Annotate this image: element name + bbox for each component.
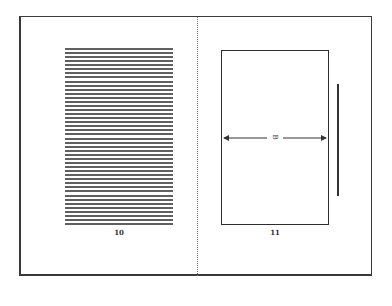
text-line	[65, 158, 173, 160]
text-line	[65, 121, 173, 123]
dimension-label: B	[271, 134, 279, 139]
text-line	[65, 89, 173, 91]
text-line	[65, 85, 173, 87]
text-line	[65, 166, 173, 168]
text-line	[65, 182, 173, 184]
text-line	[65, 215, 173, 217]
text-line	[65, 142, 173, 144]
text-line	[65, 162, 173, 164]
text-line	[65, 203, 173, 205]
text-line	[65, 64, 173, 66]
text-line	[65, 81, 173, 83]
text-line	[65, 186, 173, 188]
text-line	[65, 101, 173, 103]
text-line	[65, 125, 173, 127]
text-line	[65, 170, 173, 172]
text-line	[65, 195, 173, 197]
text-line	[65, 129, 173, 131]
text-line	[65, 174, 173, 176]
text-line	[65, 133, 173, 135]
text-block	[65, 48, 173, 226]
text-line	[65, 219, 173, 221]
text-line	[65, 117, 173, 119]
text-line	[65, 48, 173, 50]
text-line	[65, 68, 173, 70]
text-line	[65, 52, 173, 54]
text-line	[65, 138, 173, 140]
text-line	[65, 60, 173, 62]
text-line	[65, 76, 173, 78]
text-line	[65, 146, 173, 148]
text-line	[65, 211, 173, 213]
text-line	[65, 105, 173, 107]
text-line	[65, 154, 173, 156]
text-line	[65, 190, 173, 192]
text-line	[65, 207, 173, 209]
gutter-divider	[197, 17, 198, 276]
text-line	[65, 150, 173, 152]
text-line	[65, 199, 173, 201]
text-line	[65, 178, 173, 180]
text-line	[65, 93, 173, 95]
page-number-left: 10	[114, 228, 124, 237]
page-number-right: 11	[270, 228, 280, 237]
text-line	[65, 72, 173, 74]
text-line	[65, 109, 173, 111]
text-line	[65, 223, 173, 225]
text-line	[65, 113, 173, 115]
text-line	[65, 56, 173, 58]
text-line	[65, 97, 173, 99]
height-dimension-bar	[337, 84, 339, 196]
